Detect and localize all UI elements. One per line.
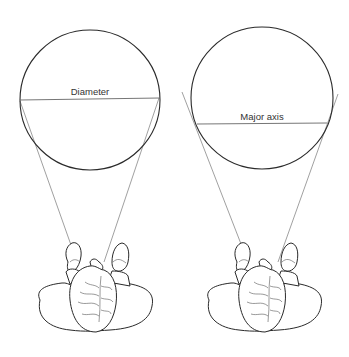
right-circle — [191, 27, 333, 169]
right-sight-line-b — [278, 94, 338, 262]
major-axis-label: Major axis — [240, 111, 284, 122]
major-axis-line — [197, 123, 327, 124]
head — [239, 266, 286, 332]
left-sight-line-b — [104, 98, 159, 262]
diameter-label: Diameter — [71, 86, 110, 97]
left-sight-line-a — [20, 101, 77, 262]
illustration: Diameter — [0, 0, 349, 357]
right-viewer — [208, 243, 322, 332]
right-knee — [112, 243, 129, 271]
head — [70, 266, 117, 332]
left-panel: Diameter — [20, 30, 160, 332]
left-viewer — [39, 243, 153, 332]
left-knee — [235, 243, 250, 272]
diameter-line — [20, 98, 160, 100]
right-sight-line-a — [182, 92, 248, 262]
left-knee — [66, 243, 81, 272]
right-panel: Major axis — [182, 27, 338, 332]
